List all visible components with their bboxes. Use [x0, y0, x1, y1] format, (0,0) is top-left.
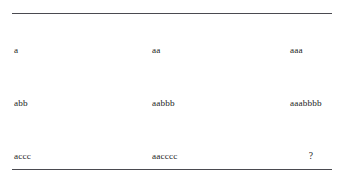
table-cell: aaabbbb [290, 93, 322, 113]
table-cell: a [14, 40, 18, 60]
table-cell: accc [14, 146, 31, 166]
pattern-table: a aa aaa abb aabbb aaabbbb accc aacccc ? [0, 14, 345, 169]
table-cell-unknown: ? [290, 146, 332, 166]
table-row: a aa aaa [0, 40, 345, 60]
table-row: accc aacccc ? [0, 146, 345, 166]
table-cell: abb [14, 93, 28, 113]
document-sheet: a aa aaa abb aabbb aaabbbb accc aacccc ? [0, 0, 345, 184]
table-cell: aacccc [152, 146, 177, 166]
table-cell: aaa [290, 40, 303, 60]
table-bottom-rule [12, 169, 332, 170]
table-cell: aa [152, 40, 160, 60]
table-cell: aabbb [152, 93, 175, 113]
table-row: abb aabbb aaabbbb [0, 93, 345, 113]
